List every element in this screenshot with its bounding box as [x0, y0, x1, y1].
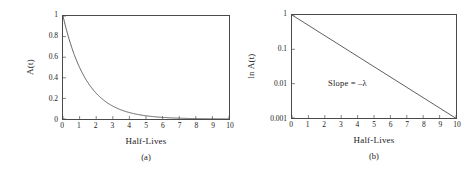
xtick-b-3: 3 [339, 121, 343, 129]
xtick-a-3: 3 [111, 122, 115, 130]
xtick-a-5: 5 [144, 122, 148, 130]
xtick-a-8: 8 [195, 122, 199, 130]
yaxis-title-b: ln A(t) [246, 53, 256, 78]
xaxis-title-b: Half-Lives [354, 135, 395, 145]
xtick-b-9: 9 [439, 121, 443, 129]
xtick-b-5: 5 [372, 121, 376, 129]
xtick-b-2: 2 [322, 121, 326, 129]
xtick-b-4: 4 [356, 121, 360, 129]
panel-b: Slope = –λ 0 1 2 3 4 5 6 7 8 9 10 0.001 … [238, 0, 475, 171]
slope-annotation: Slope = –λ [328, 78, 367, 88]
ytick-a-0p2: 0.2 [41, 95, 58, 103]
ytick-b-1: 1 [262, 10, 287, 18]
xtick-a-9: 9 [211, 122, 215, 130]
xtick-b-6: 6 [389, 121, 393, 129]
xtick-a-0: 0 [60, 122, 64, 130]
ytick-b-0p1: 0.1 [262, 45, 287, 53]
xaxis-title-a: Half-Lives [126, 136, 167, 146]
panel-caption-b: (b) [369, 151, 379, 161]
ytick-a-1: 1 [44, 11, 58, 19]
decay-curve-linear [63, 16, 229, 119]
xtick-a-2: 2 [94, 122, 98, 130]
xtick-a-6: 6 [161, 122, 165, 130]
xtick-a-1: 1 [77, 122, 81, 130]
xtick-b-10: 10 [453, 121, 461, 129]
xtick-b-1: 1 [306, 121, 310, 129]
xtick-a-7: 7 [178, 122, 182, 130]
plot-area-a [62, 15, 230, 120]
panel-a: 0 1 2 3 4 5 6 7 8 9 10 0 0.2 0.4 0.6 0.8… [0, 0, 238, 171]
decay-curve-log [292, 15, 456, 118]
plot-area-b [291, 14, 457, 119]
xtick-a-10: 10 [226, 122, 234, 130]
ytick-a-0p4: 0.4 [41, 74, 58, 82]
ytick-a-0: 0 [44, 116, 58, 124]
xtick-b-7: 7 [405, 121, 409, 129]
ytick-a-0p6: 0.6 [41, 53, 58, 61]
panel-caption-a: (a) [141, 152, 150, 162]
xtick-a-4: 4 [127, 122, 131, 130]
xtick-b-0: 0 [289, 121, 293, 129]
decay-figure: 0 1 2 3 4 5 6 7 8 9 10 0 0.2 0.4 0.6 0.8… [0, 0, 475, 171]
xtick-b-8: 8 [422, 121, 426, 129]
ytick-a-0p8: 0.8 [41, 32, 58, 40]
ytick-b-0p01: 0.01 [262, 80, 287, 88]
ytick-b-0p001: 0.001 [262, 115, 287, 123]
yaxis-title-a: A(t) [25, 59, 35, 75]
